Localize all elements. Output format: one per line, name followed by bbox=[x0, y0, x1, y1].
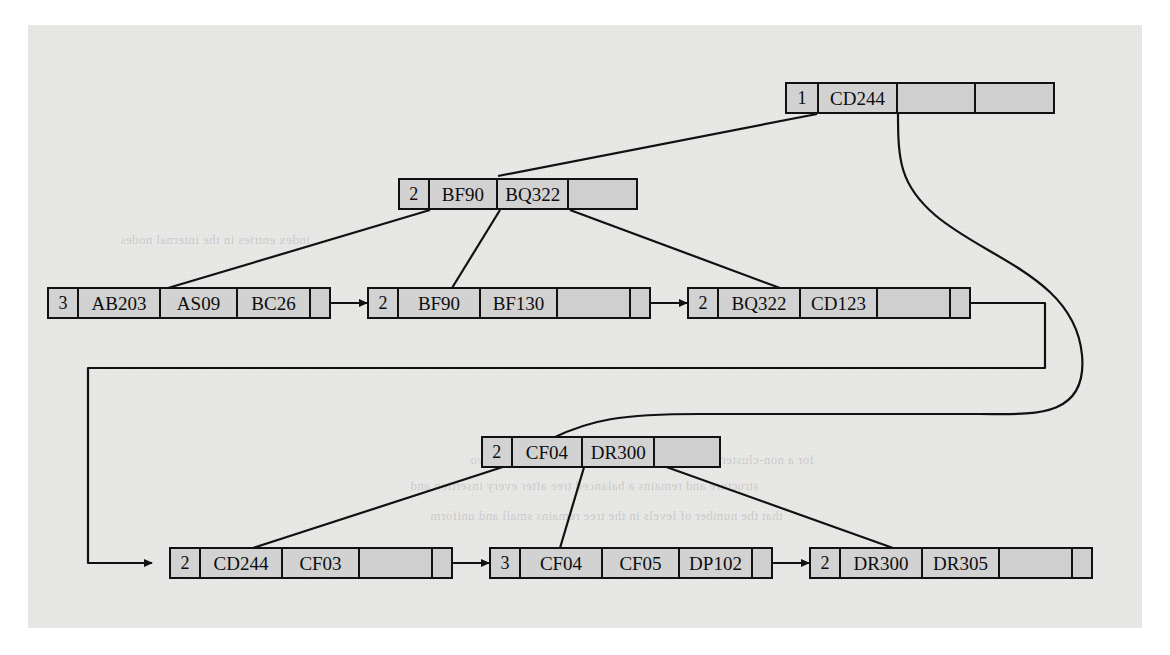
internal-left-key-cell-2: BQ322 bbox=[498, 180, 569, 208]
leaf-cf04-key-cell-2: CF05 bbox=[603, 549, 680, 577]
leaf-bq322-key-cell-2: CD123 bbox=[801, 289, 878, 317]
leaf-bf90-key-cell-1: BF90 bbox=[399, 289, 481, 317]
figure-canvas: for a non-clustered index with a composi… bbox=[0, 0, 1170, 655]
leaf-bq322-next-pointer-cell bbox=[951, 289, 969, 317]
edge-root-to-internal-left bbox=[498, 114, 817, 176]
leaf-dr300-key-cell-3 bbox=[1000, 549, 1073, 577]
internal-node-bf90[interactable]: 2 BF90 BQ322 bbox=[398, 178, 638, 210]
edge-internal-left-to-leaf-ab203 bbox=[168, 210, 430, 288]
leaf-bq322-key-cell-1: BQ322 bbox=[719, 289, 801, 317]
leaf-bf90-next-pointer-cell bbox=[631, 289, 649, 317]
root-key-cell-3 bbox=[976, 84, 1053, 112]
internal-right-count-cell: 2 bbox=[483, 438, 513, 466]
leaf-dr300-count-cell: 2 bbox=[811, 549, 841, 577]
edge-internal-right-to-leaf-cd244 bbox=[253, 464, 512, 548]
leaf-ab203-next-pointer-cell bbox=[311, 289, 329, 317]
leaf-cf04-count-cell: 3 bbox=[491, 549, 521, 577]
leaf-node-ab203[interactable]: 3 AB203 AS09 BC26 bbox=[47, 287, 331, 319]
root-key-cell-1: CD244 bbox=[819, 84, 898, 112]
internal-node-cf04[interactable]: 2 CF04 DR300 bbox=[481, 436, 721, 468]
leaf-cd244-next-pointer-cell bbox=[433, 549, 451, 577]
leaf-dr300-key-cell-1: DR300 bbox=[841, 549, 923, 577]
leaf-bf90-count-cell: 2 bbox=[369, 289, 399, 317]
internal-right-key-cell-1: CF04 bbox=[513, 438, 584, 466]
leaf-bq322-key-cell-3 bbox=[878, 289, 951, 317]
leaf-ab203-key-cell-3: BC26 bbox=[238, 289, 311, 317]
leaf-node-bq322[interactable]: 2 BQ322 CD123 bbox=[687, 287, 971, 319]
leaf-ab203-count-cell: 3 bbox=[49, 289, 79, 317]
leaf-bf90-key-cell-2: BF130 bbox=[481, 289, 558, 317]
leaf-cf04-key-cell-1: CF04 bbox=[521, 549, 603, 577]
leaf-node-dr300[interactable]: 2 DR300 DR305 bbox=[809, 547, 1093, 579]
leaf-ab203-key-cell-2: AS09 bbox=[161, 289, 238, 317]
leaf-node-cf04[interactable]: 3 CF04 CF05 DP102 bbox=[489, 547, 773, 579]
leaf-bq322-count-cell: 2 bbox=[689, 289, 719, 317]
leaf-cf04-next-pointer-cell bbox=[753, 549, 771, 577]
leaf-dr300-key-cell-2: DR305 bbox=[923, 549, 1000, 577]
root-node[interactable]: 1 CD244 bbox=[785, 82, 1055, 114]
root-key-cell-2 bbox=[898, 84, 975, 112]
edge-internal-right-to-leaf-cf04 bbox=[560, 464, 585, 548]
internal-left-key-cell-3 bbox=[569, 180, 636, 208]
internal-left-key-cell-1: BF90 bbox=[430, 180, 499, 208]
leaf-bf90-key-cell-3 bbox=[558, 289, 631, 317]
internal-right-key-cell-3 bbox=[655, 438, 719, 466]
leaf-node-cd244[interactable]: 2 CD244 CF03 bbox=[169, 547, 453, 579]
edge-internal-left-to-leaf-bf90 bbox=[452, 210, 500, 288]
leaf-node-bf90[interactable]: 2 BF90 BF130 bbox=[367, 287, 651, 319]
edge-root-to-internal-right bbox=[553, 114, 1082, 438]
leaf-cd244-key-cell-2: CF03 bbox=[283, 549, 360, 577]
leaf-cd244-key-cell-1: CD244 bbox=[201, 549, 283, 577]
root-count-cell: 1 bbox=[787, 84, 819, 112]
leaf-cd244-key-cell-3 bbox=[360, 549, 433, 577]
internal-left-count-cell: 2 bbox=[400, 180, 430, 208]
leaf-cf04-key-cell-3: DP102 bbox=[680, 549, 753, 577]
internal-right-key-cell-2: DR300 bbox=[583, 438, 655, 466]
leaf-cd244-count-cell: 2 bbox=[171, 549, 201, 577]
edge-internal-right-to-leaf-dr300 bbox=[658, 464, 893, 548]
leaf-ab203-key-cell-1: AB203 bbox=[79, 289, 161, 317]
edge-internal-left-to-leaf-bq322 bbox=[570, 210, 780, 288]
leaf-dr300-end-pointer-cell bbox=[1073, 549, 1091, 577]
